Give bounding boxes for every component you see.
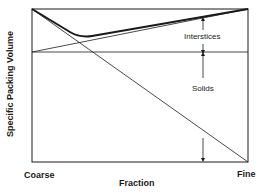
interstices-label: Interstices bbox=[183, 32, 221, 41]
solids-label: Solids bbox=[191, 84, 215, 93]
diagram-canvas bbox=[0, 0, 266, 192]
x-right-label: Fine bbox=[237, 169, 256, 179]
y-axis-label: Specific Packing Volume bbox=[5, 29, 15, 139]
x-left-label: Coarse bbox=[24, 170, 55, 180]
x-axis-label: Fraction bbox=[119, 178, 155, 188]
